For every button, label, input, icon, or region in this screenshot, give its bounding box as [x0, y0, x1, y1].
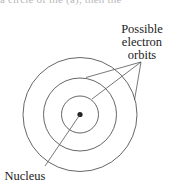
label-electron: electron [122, 35, 163, 49]
leader-line-outer-orbit [135, 62, 142, 100]
leader-line-inner-orbit [92, 62, 141, 99]
label-possible: Possible [121, 22, 163, 36]
leader-line-middle-orbit [86, 62, 141, 78]
atom-diagram: Possible electron orbits Nucleus [0, 0, 171, 188]
label-nucleus: Nucleus [5, 169, 46, 183]
label-orbits: orbits [128, 48, 157, 62]
leader-line-nucleus [45, 115, 80, 167]
